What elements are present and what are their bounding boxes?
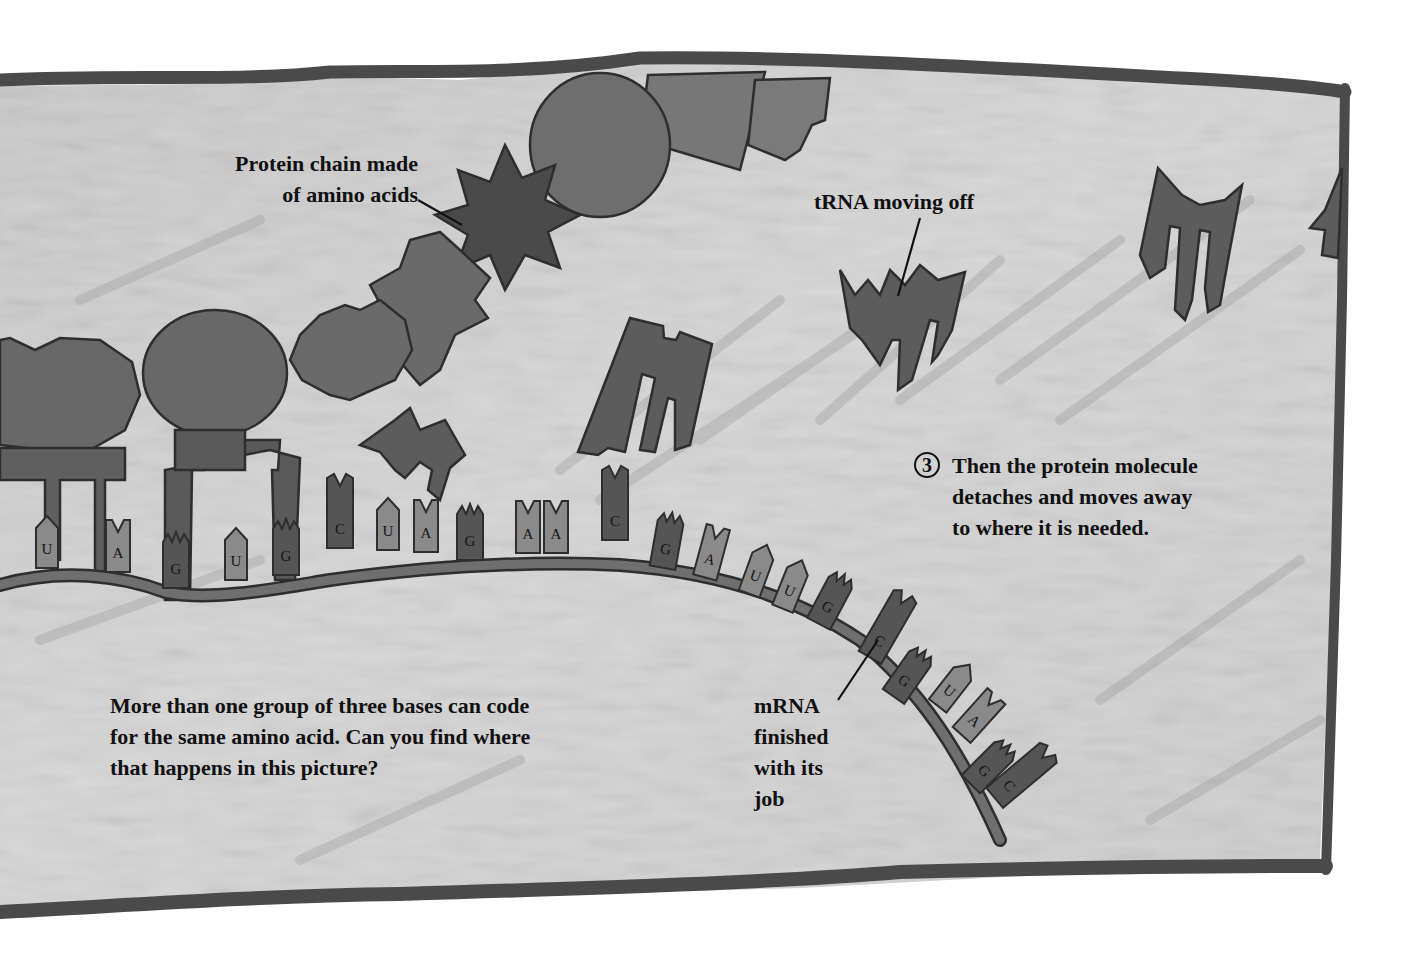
base-letter: C <box>335 521 345 537</box>
mrna-base: C <box>327 474 353 548</box>
base-letter: U <box>231 553 242 569</box>
amino-acid-circle-left <box>0 338 140 450</box>
mrna-base: C <box>602 466 628 540</box>
step-3-caption: 3 <box>914 450 946 481</box>
protein-chain-label: Protein chain made of amino acids <box>170 148 418 210</box>
protein-synthesis-illustration: UAGUGCUAGAACGAUUGCGUAGC <box>0 0 1427 953</box>
base-letter: G <box>465 533 476 549</box>
question-text: More than one group of three bases can c… <box>110 690 530 783</box>
step-3-text: Then the protein molecule detaches and m… <box>952 450 1198 543</box>
mrna-finished-label: mRNA finished with its job <box>754 690 829 814</box>
base-letter: U <box>383 523 394 539</box>
step-number-badge: 3 <box>914 452 940 478</box>
mrna-base: U <box>225 528 247 580</box>
base-letter: A <box>421 525 432 541</box>
trna-moving-off-label: tRNA moving off <box>814 186 974 217</box>
mrna-base: G <box>163 532 189 588</box>
base-shape <box>457 504 483 560</box>
base-letter: G <box>281 548 292 564</box>
amino-acid-circle-top <box>530 73 670 217</box>
illustration-page: UAGUGCUAGAACGAUUGCGUAGC Protein chain ma… <box>0 0 1427 953</box>
base-letter: C <box>610 513 620 529</box>
mrna-base: G <box>457 504 483 560</box>
amino-acid-circle-middle <box>143 310 287 436</box>
base-letter: G <box>171 561 182 577</box>
mrna-base: G <box>273 519 299 575</box>
trna-stem-2 <box>175 430 245 470</box>
base-letter: U <box>42 541 53 557</box>
mrna-base: U <box>36 516 58 568</box>
base-shape <box>273 519 299 575</box>
base-letter: A <box>551 526 562 542</box>
base-letter: A <box>523 526 534 542</box>
base-letter: A <box>113 545 124 561</box>
base-shape <box>163 532 189 588</box>
mrna-base: U <box>377 498 399 550</box>
